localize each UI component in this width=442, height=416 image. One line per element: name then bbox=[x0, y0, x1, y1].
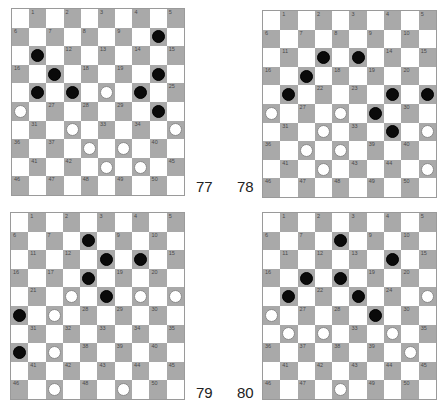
square-8: 8 bbox=[81, 28, 98, 47]
light-square bbox=[132, 139, 149, 158]
square-38: 38 bbox=[80, 343, 97, 362]
light-square bbox=[280, 67, 297, 86]
square-22 bbox=[63, 287, 80, 306]
square-11 bbox=[29, 46, 46, 65]
square-32: 32 bbox=[63, 325, 80, 344]
light-square bbox=[315, 380, 332, 399]
square-48: 48 bbox=[332, 178, 349, 197]
black-piece-icon bbox=[317, 51, 330, 64]
light-square bbox=[63, 232, 80, 251]
light-square bbox=[150, 158, 167, 177]
light-square bbox=[115, 158, 132, 177]
light-square bbox=[263, 160, 280, 179]
square-17 bbox=[298, 67, 315, 86]
light-square bbox=[349, 269, 366, 288]
light-square bbox=[46, 325, 63, 344]
square-37 bbox=[46, 343, 63, 362]
square-number: 45 bbox=[421, 363, 427, 369]
square-3: 3 bbox=[97, 213, 114, 232]
square-24: 24 bbox=[384, 287, 401, 306]
square-13 bbox=[349, 48, 366, 67]
black-piece-icon bbox=[300, 70, 313, 83]
square-12: 12 bbox=[63, 250, 80, 269]
light-square bbox=[80, 287, 97, 306]
light-square bbox=[419, 178, 436, 197]
light-square bbox=[46, 287, 63, 306]
square-20: 20 bbox=[149, 269, 166, 288]
square-number: 14 bbox=[134, 47, 140, 53]
white-piece-icon bbox=[117, 142, 130, 155]
square-49 bbox=[115, 380, 132, 399]
square-number: 4 bbox=[386, 12, 389, 18]
square-44: 44 bbox=[384, 362, 401, 381]
square-number: 2 bbox=[317, 12, 320, 18]
light-square bbox=[401, 325, 418, 344]
square-16: 16 bbox=[11, 269, 28, 288]
square-number: 7 bbox=[48, 29, 51, 35]
light-square bbox=[419, 269, 436, 288]
draughts-board-79: 1234567910111215161719202128293031323334… bbox=[10, 212, 185, 400]
light-square bbox=[384, 232, 401, 251]
white-piece-icon bbox=[282, 327, 295, 340]
white-piece-icon bbox=[421, 125, 434, 138]
light-square bbox=[167, 65, 184, 84]
square-26 bbox=[11, 306, 28, 325]
light-square bbox=[132, 102, 149, 121]
square-50: 50 bbox=[149, 380, 166, 399]
light-square bbox=[332, 160, 349, 179]
square-7: 7 bbox=[46, 28, 63, 47]
square-25 bbox=[419, 85, 436, 104]
light-square bbox=[28, 232, 45, 251]
square-10: 10 bbox=[401, 30, 418, 49]
black-piece-icon bbox=[300, 272, 313, 285]
square-number: 44 bbox=[134, 363, 140, 369]
square-49: 49 bbox=[115, 176, 132, 195]
light-square bbox=[367, 362, 384, 381]
square-number: 12 bbox=[66, 47, 72, 53]
square-number: 49 bbox=[369, 179, 375, 185]
square-18: 18 bbox=[81, 65, 98, 84]
light-square bbox=[367, 250, 384, 269]
light-square bbox=[298, 287, 315, 306]
square-50: 50 bbox=[150, 176, 167, 195]
light-square bbox=[63, 343, 80, 362]
square-26 bbox=[12, 102, 29, 121]
square-number: 37 bbox=[300, 344, 306, 350]
square-number: 39 bbox=[117, 344, 123, 350]
square-34: 34 bbox=[132, 325, 149, 344]
square-number: 7 bbox=[48, 233, 51, 239]
light-square bbox=[46, 250, 63, 269]
light-square bbox=[419, 306, 436, 325]
square-number: 8 bbox=[334, 31, 337, 37]
square-number: 28 bbox=[83, 103, 89, 109]
square-41: 41 bbox=[280, 362, 297, 381]
square-21: 21 bbox=[28, 287, 45, 306]
square-8: 8 bbox=[332, 30, 349, 49]
square-6: 6 bbox=[12, 28, 29, 47]
square-40: 40 bbox=[401, 141, 418, 160]
light-square bbox=[12, 158, 29, 177]
square-47: 47 bbox=[298, 380, 315, 399]
light-square bbox=[11, 213, 28, 232]
square-39: 39 bbox=[367, 343, 384, 362]
light-square bbox=[29, 65, 46, 84]
light-square bbox=[115, 362, 132, 381]
square-number: 6 bbox=[14, 29, 17, 35]
white-piece-icon bbox=[100, 161, 113, 174]
square-13: 13 bbox=[98, 46, 115, 65]
square-31 bbox=[280, 325, 297, 344]
light-square bbox=[384, 104, 401, 123]
square-34 bbox=[384, 325, 401, 344]
light-square bbox=[11, 325, 28, 344]
square-42: 42 bbox=[315, 362, 332, 381]
light-square bbox=[28, 380, 45, 399]
square-number: 3 bbox=[351, 12, 354, 18]
square-number: 33 bbox=[351, 124, 357, 130]
white-piece-icon bbox=[117, 383, 130, 396]
light-square bbox=[115, 325, 132, 344]
light-square bbox=[149, 213, 166, 232]
square-number: 12 bbox=[317, 251, 323, 257]
light-square bbox=[332, 11, 349, 30]
square-5: 5 bbox=[167, 213, 184, 232]
square-number: 16 bbox=[13, 270, 19, 276]
